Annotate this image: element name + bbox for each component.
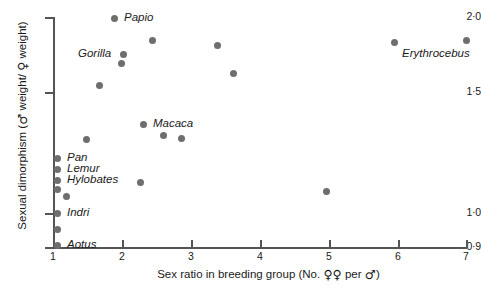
x-tick bbox=[191, 240, 193, 248]
data-point bbox=[120, 51, 127, 58]
data-point bbox=[178, 135, 185, 142]
data-point bbox=[63, 193, 70, 200]
y-axis-title-text: Sexual dimorphism (♂ weight/ ♀ weight) bbox=[16, 21, 28, 229]
x-tick-label: 5 bbox=[319, 250, 339, 262]
data-point bbox=[54, 210, 61, 217]
x-tick bbox=[398, 240, 400, 248]
genus-label: Hylobates bbox=[67, 173, 118, 185]
x-tick-label: 2 bbox=[112, 250, 132, 262]
x-tick bbox=[122, 240, 124, 248]
data-point bbox=[118, 60, 125, 67]
data-point bbox=[111, 15, 118, 22]
x-tick bbox=[329, 240, 331, 248]
y-tick-label: 1·0 bbox=[440, 206, 481, 218]
y-tick bbox=[45, 213, 53, 215]
data-point bbox=[54, 186, 61, 193]
genus-label: Indri bbox=[67, 206, 89, 218]
data-point bbox=[391, 39, 398, 46]
x-tick-label: 6 bbox=[388, 250, 408, 262]
data-point bbox=[230, 70, 237, 77]
x-tick bbox=[466, 240, 468, 248]
data-point bbox=[214, 42, 221, 49]
y-tick bbox=[45, 92, 53, 94]
genus-label: Macaca bbox=[153, 117, 193, 129]
data-point bbox=[149, 37, 156, 44]
data-point bbox=[96, 82, 103, 89]
genus-label: Gorilla bbox=[78, 47, 111, 59]
data-point bbox=[83, 136, 90, 143]
data-point bbox=[54, 166, 61, 173]
scatter-plot: 0·91·01·52·0 1234567 PapioGorillaErythro… bbox=[0, 0, 481, 299]
data-point bbox=[140, 121, 147, 128]
data-point bbox=[137, 179, 144, 186]
y-tick bbox=[45, 247, 53, 249]
x-tick-label: 7 bbox=[456, 250, 476, 262]
x-tick-label: 1 bbox=[43, 250, 63, 262]
data-point bbox=[54, 155, 61, 162]
y-tick-label: 2·0 bbox=[440, 10, 481, 22]
y-tick bbox=[45, 17, 53, 19]
x-tick bbox=[260, 240, 262, 248]
data-point bbox=[463, 37, 470, 44]
genus-label: Aotus bbox=[67, 238, 96, 250]
x-tick-label: 4 bbox=[250, 250, 270, 262]
data-point bbox=[54, 242, 61, 249]
x-tick-label: 3 bbox=[181, 250, 201, 262]
data-point bbox=[54, 226, 61, 233]
x-axis-title: Sex ratio in breeding group (No. ♀♀ per … bbox=[0, 266, 481, 281]
y-tick-label: 1·5 bbox=[440, 85, 481, 97]
data-point bbox=[54, 177, 61, 184]
data-point bbox=[323, 188, 330, 195]
genus-label: Papio bbox=[124, 11, 153, 23]
genus-label: Erythrocebus bbox=[402, 47, 470, 59]
data-point bbox=[160, 132, 167, 139]
y-axis-title: Sexual dimorphism (♂ weight/ ♀ weight) bbox=[14, 1, 29, 251]
x-axis-title-text: Sex ratio in breeding group (No. ♀♀ per … bbox=[157, 268, 380, 280]
